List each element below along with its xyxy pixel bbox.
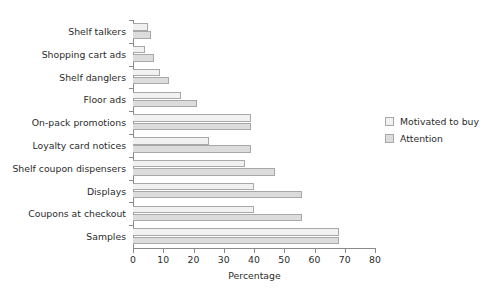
category-row: Shelf coupon dispensers	[133, 157, 375, 180]
x-axis-tick	[315, 249, 316, 253]
bar-attention[interactable]	[133, 237, 339, 244]
category-row: Floor ads	[133, 88, 375, 111]
x-axis-tick	[133, 249, 134, 253]
x-axis-tick	[194, 249, 195, 253]
bar-motivated-to-buy[interactable]	[133, 183, 254, 190]
legend-item-attention[interactable]: Attention	[385, 130, 479, 147]
category-label: Loyalty card notices	[0, 136, 126, 155]
category-label: Floor ads	[0, 90, 126, 109]
legend-item-motivated-to-buy[interactable]: Motivated to buy	[385, 113, 479, 130]
y-axis-tick	[129, 157, 133, 158]
legend-swatch-icon	[385, 134, 394, 143]
x-axis-tick	[375, 249, 376, 253]
category-row: On-pack promotions	[133, 111, 375, 134]
y-axis-tick	[129, 202, 133, 203]
chart-legend: Motivated to buy Attention	[385, 113, 479, 147]
y-axis-tick	[129, 88, 133, 89]
bar-attention[interactable]	[133, 168, 275, 175]
bar-motivated-to-buy[interactable]	[133, 114, 251, 121]
legend-label: Motivated to buy	[400, 116, 479, 127]
bar-attention[interactable]	[133, 31, 151, 38]
category-row: Samples	[133, 225, 375, 248]
category-row: Shopping cart ads	[133, 43, 375, 66]
bar-attention[interactable]	[133, 54, 154, 61]
y-axis-tick	[129, 225, 133, 226]
bar-attention[interactable]	[133, 214, 302, 221]
bar-chart: Shelf talkersShopping cart adsShelf dang…	[0, 0, 501, 298]
category-row: Displays	[133, 180, 375, 203]
x-axis-tick	[284, 249, 285, 253]
bar-motivated-to-buy[interactable]	[133, 160, 245, 167]
x-axis-tick-label: 0	[118, 254, 148, 265]
category-row: Shelf danglers	[133, 66, 375, 89]
category-label: Shelf talkers	[0, 22, 126, 41]
x-axis-tick-label: 50	[269, 254, 299, 265]
x-axis-tick-label: 10	[148, 254, 178, 265]
y-axis-tick	[129, 134, 133, 135]
y-axis-tick	[129, 66, 133, 67]
bar-motivated-to-buy[interactable]	[133, 206, 254, 213]
category-label: Shelf danglers	[0, 68, 126, 87]
y-axis-tick	[129, 20, 133, 21]
category-row: Coupons at checkout	[133, 202, 375, 225]
x-axis-tick	[345, 249, 346, 253]
x-axis-tick-label: 60	[300, 254, 330, 265]
bar-motivated-to-buy[interactable]	[133, 23, 148, 30]
category-row: Loyalty card notices	[133, 134, 375, 157]
x-axis-tick-label: 30	[209, 254, 239, 265]
plot-area: Shelf talkersShopping cart adsShelf dang…	[133, 20, 375, 248]
category-label: Displays	[0, 182, 126, 201]
bar-motivated-to-buy[interactable]	[133, 92, 181, 99]
x-axis-tick	[224, 249, 225, 253]
bar-attention[interactable]	[133, 77, 169, 84]
bar-attention[interactable]	[133, 191, 302, 198]
y-axis-tick	[129, 43, 133, 44]
x-axis-tick-label: 20	[179, 254, 209, 265]
bar-attention[interactable]	[133, 145, 251, 152]
category-label: Shopping cart ads	[0, 45, 126, 64]
x-axis-tick	[254, 249, 255, 253]
category-label: Samples	[0, 227, 126, 246]
bar-motivated-to-buy[interactable]	[133, 69, 160, 76]
x-axis-title: Percentage	[133, 270, 376, 281]
bar-motivated-to-buy[interactable]	[133, 228, 339, 235]
category-row: Shelf talkers	[133, 20, 375, 43]
legend-swatch-icon	[385, 117, 394, 126]
bar-motivated-to-buy[interactable]	[133, 137, 209, 144]
x-axis-tick	[163, 249, 164, 253]
y-axis-tick	[129, 180, 133, 181]
bar-motivated-to-buy[interactable]	[133, 46, 145, 53]
x-axis-tick-label: 70	[330, 254, 360, 265]
category-label: Shelf coupon dispensers	[0, 159, 126, 178]
x-axis-tick-label: 40	[239, 254, 269, 265]
category-label: Coupons at checkout	[0, 204, 126, 223]
bar-attention[interactable]	[133, 100, 197, 107]
y-axis-tick	[129, 111, 133, 112]
category-label: On-pack promotions	[0, 113, 126, 132]
x-axis-tick-label: 80	[360, 254, 390, 265]
legend-label: Attention	[400, 133, 443, 144]
bar-attention[interactable]	[133, 123, 251, 130]
